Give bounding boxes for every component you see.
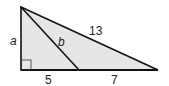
label-13: 13 [89,24,103,38]
label-a: a [10,34,17,48]
label-7: 7 [111,73,118,86]
label-b: b [58,35,65,49]
outer-triangle [21,7,158,70]
triangle-diagram: a b 13 5 7 [0,0,169,86]
label-5: 5 [45,73,52,86]
